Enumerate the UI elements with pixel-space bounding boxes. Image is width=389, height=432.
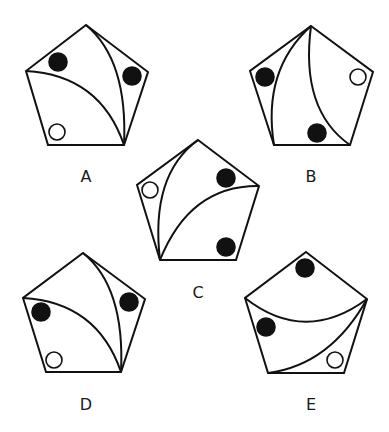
black-circle bbox=[296, 259, 314, 277]
figure-label: E bbox=[306, 395, 316, 414]
curved-line bbox=[158, 140, 198, 260]
white-circle bbox=[350, 69, 366, 85]
figure-a[interactable]: A bbox=[26, 25, 148, 186]
figure-label: C bbox=[192, 283, 203, 302]
black-circle bbox=[308, 124, 326, 142]
figure-label: D bbox=[80, 395, 92, 414]
black-circle bbox=[49, 53, 67, 71]
black-circle bbox=[217, 238, 235, 256]
figure-label: A bbox=[81, 167, 92, 186]
white-circle bbox=[49, 124, 65, 140]
black-circle bbox=[120, 293, 138, 311]
white-circle bbox=[327, 352, 343, 368]
curved-line bbox=[26, 71, 124, 145]
curved-line bbox=[268, 299, 367, 373]
black-circle bbox=[32, 303, 50, 321]
figure-b[interactable]: B bbox=[250, 26, 373, 186]
black-circle bbox=[217, 169, 235, 187]
curved-line bbox=[160, 186, 259, 260]
figure-label: B bbox=[306, 167, 317, 186]
curved-line bbox=[272, 26, 311, 145]
curved-line bbox=[83, 253, 121, 372]
figure-d[interactable]: D bbox=[23, 253, 145, 414]
pentagon-outline bbox=[137, 140, 259, 260]
black-circle bbox=[256, 68, 274, 86]
figure-e[interactable]: E bbox=[245, 252, 367, 414]
black-circle bbox=[123, 67, 141, 85]
black-circle bbox=[257, 318, 275, 336]
white-circle bbox=[142, 182, 158, 198]
white-circle bbox=[46, 352, 62, 368]
figure-c[interactable]: C bbox=[137, 140, 259, 302]
puzzle-canvas: A B C D E bbox=[0, 0, 389, 432]
curved-line bbox=[86, 25, 124, 145]
